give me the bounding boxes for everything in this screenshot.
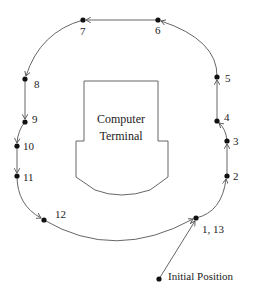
waypoint-4 xyxy=(214,118,219,123)
waypoint-12 xyxy=(41,217,46,222)
terminal-label-line1: Computer xyxy=(97,112,145,126)
waypoint-9 xyxy=(22,119,27,124)
waypoint-6 xyxy=(155,17,160,22)
waypoint-label-4: 4 xyxy=(224,111,230,123)
waypoint-1-13 xyxy=(193,215,198,220)
waypoint-10 xyxy=(14,143,19,148)
segment-5-to-6 xyxy=(161,21,217,77)
waypoint-label-2: 2 xyxy=(233,170,239,182)
waypoint-label-7: 7 xyxy=(80,25,86,37)
start-position-label: Initial Position xyxy=(168,270,234,282)
waypoint-2 xyxy=(224,173,229,178)
waypoint-label-10: 10 xyxy=(23,140,35,152)
waypoint-label-8: 8 xyxy=(34,78,40,90)
waypoint-label-5: 5 xyxy=(225,72,231,84)
waypoint-7 xyxy=(80,17,85,22)
segment-3-to-4 xyxy=(219,123,227,141)
waypoint-11 xyxy=(14,173,19,178)
robot-path-diagram: Computer Terminal 1, 13 2 3 4 5 6 7 8 9 … xyxy=(0,0,253,298)
waypoint-label-6: 6 xyxy=(155,24,161,36)
start-position-dot xyxy=(156,276,161,281)
segment-12-to-13 xyxy=(44,219,193,241)
waypoint-label-11: 11 xyxy=(23,171,34,183)
waypoint-5 xyxy=(214,74,219,79)
segment-7-to-8 xyxy=(26,20,83,76)
waypoint-label-3: 3 xyxy=(233,135,239,147)
waypoint-label-12: 12 xyxy=(55,208,66,220)
terminal-label-line2: Terminal xyxy=(99,129,143,143)
waypoint-label-1-13: 1, 13 xyxy=(202,223,225,235)
waypoint-8 xyxy=(22,76,27,81)
segment-1-to-2 xyxy=(196,179,226,218)
waypoint-3 xyxy=(224,138,229,143)
waypoint-label-9: 9 xyxy=(32,113,38,125)
